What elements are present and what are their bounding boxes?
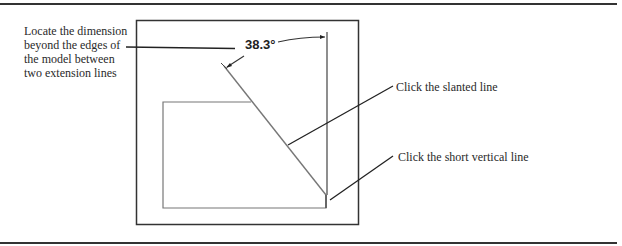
dimension-value-label[interactable]: 38.3°	[245, 37, 276, 52]
leader-slanted-line	[288, 86, 393, 145]
callout-locate-dimension: Locate the dimension beyond the edges of…	[24, 24, 134, 80]
model-edges	[163, 102, 326, 208]
leader-dimension	[126, 47, 235, 49]
model-outline	[163, 102, 326, 208]
extension-tick	[221, 63, 227, 69]
arrowhead-right-icon	[320, 35, 325, 39]
slanted-line[interactable]	[224, 66, 326, 195]
callout-slanted-line: Click the slanted line	[396, 80, 498, 94]
bottom-rule	[0, 242, 617, 244]
dimension-arc-right[interactable]	[278, 37, 325, 42]
callout-short-vertical-line: Click the short vertical line	[398, 150, 529, 164]
leader-short-vertical	[330, 156, 393, 200]
